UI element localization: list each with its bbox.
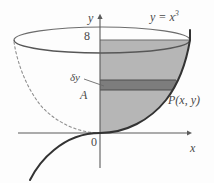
- x-axis-label: x: [190, 142, 195, 154]
- solid-of-revolution-figure: y = x3 y x 8 0 δy A P(x, y): [0, 0, 214, 183]
- dashed-mirror-curve: [14, 42, 100, 133]
- point-p-label: P(x, y): [168, 94, 200, 106]
- curve-exponent: 3: [175, 9, 179, 18]
- y-tick-label-8: 8: [84, 30, 90, 42]
- cubic-curve-lower-branch: [30, 133, 100, 180]
- delta-y-label: δy: [70, 72, 80, 83]
- curve-equation-label: y = x3: [150, 10, 179, 23]
- cross-section-area-label: A: [80, 89, 87, 101]
- figure-canvas: [0, 0, 214, 183]
- y-axis-label: y: [88, 12, 93, 24]
- revolved-region-group: [100, 40, 192, 134]
- ellipse-back-arc: [14, 27, 190, 40]
- origin-label: 0: [91, 136, 97, 148]
